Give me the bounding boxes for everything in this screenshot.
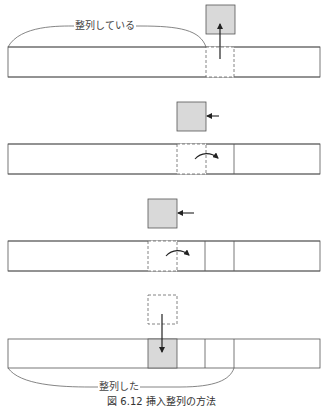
figure-caption: 図 6.12 挿入整列の方法 <box>0 396 323 408</box>
vacated-cell <box>148 241 177 271</box>
array-bar <box>8 144 320 174</box>
lifted-element-box <box>148 199 177 228</box>
sorted-complete-label: 整列した <box>98 381 140 393</box>
step-2 <box>8 102 320 174</box>
step-3 <box>8 199 320 271</box>
step-4 <box>8 295 320 387</box>
lifted-element-box <box>177 102 206 131</box>
vacated-cell <box>177 144 206 174</box>
step-1 <box>8 5 320 77</box>
array-bar <box>8 47 320 77</box>
sorted-partial-label: 整列している <box>74 20 136 32</box>
